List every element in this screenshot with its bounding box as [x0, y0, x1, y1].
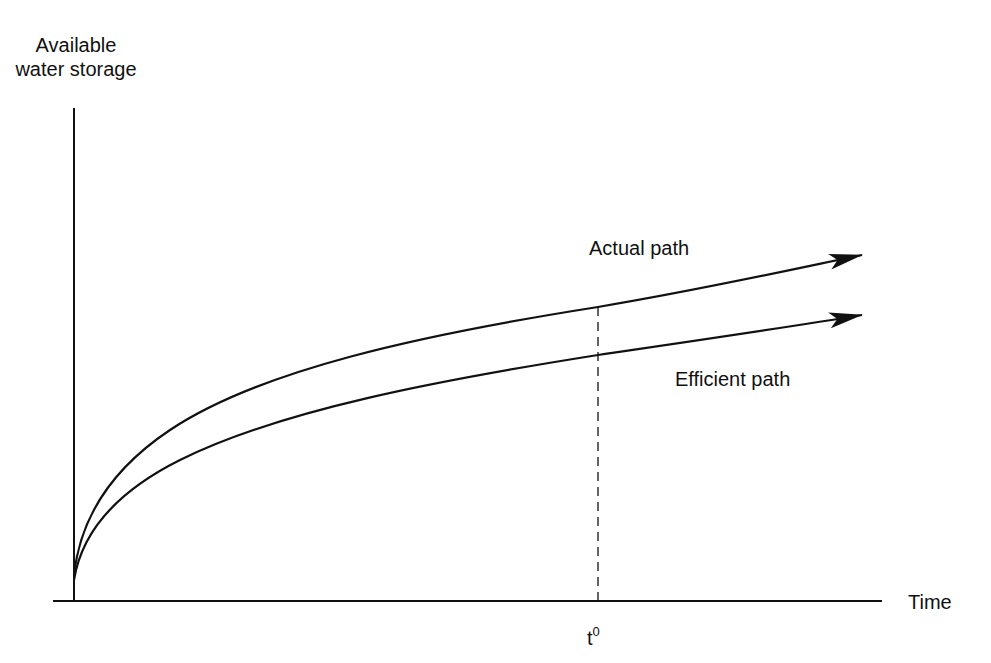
y-axis-label: Available water storage — [0, 33, 152, 81]
diagram-canvas — [0, 0, 991, 663]
y-axis-label-line2: water storage — [0, 57, 152, 81]
x-axis-label: Time — [908, 590, 952, 614]
efficient-path-curve — [74, 315, 862, 580]
actual-path-label: Actual path — [589, 236, 689, 260]
y-axis-label-line1: Available — [0, 33, 152, 57]
t0-superscript: 0 — [593, 624, 600, 639]
actual-path-curve — [74, 255, 862, 575]
t0-label: t0 — [587, 620, 600, 650]
efficient-path-label: Efficient path — [675, 367, 790, 391]
